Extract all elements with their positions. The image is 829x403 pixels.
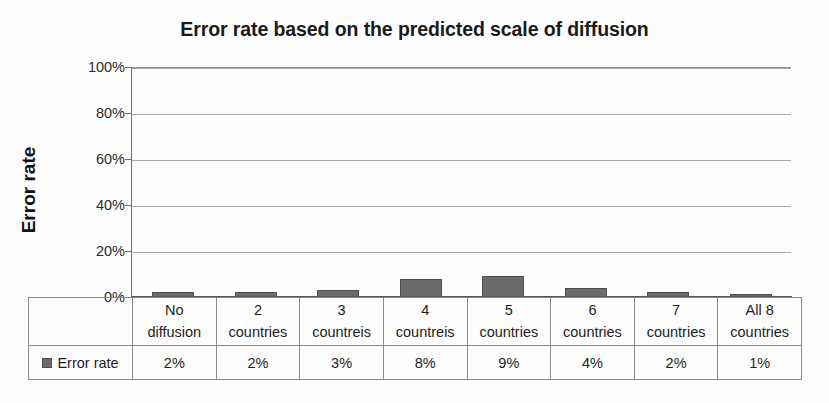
- bar-slot: [462, 68, 545, 297]
- category-label-cell: 3countreis: [300, 298, 384, 346]
- category-label-line: countries: [551, 322, 634, 343]
- data-value-row: Error rate2%2%3%8%9%4%2%1%: [29, 346, 802, 380]
- bar[interactable]: [482, 276, 524, 297]
- category-label-line: countries: [635, 322, 718, 343]
- bar-slot: [545, 68, 628, 297]
- data-value-cell: 3%: [300, 346, 384, 380]
- category-row-spacer: [29, 298, 133, 346]
- category-label-cell: 5countries: [467, 298, 551, 346]
- y-axis-tick-label: 80%: [15, 105, 125, 121]
- category-label-cell: 6countries: [551, 298, 635, 346]
- category-label-cell: 7countries: [634, 298, 718, 346]
- y-axis-tick-labels: 0%20%40%60%80%100%: [8, 67, 125, 297]
- category-label-line: countries: [718, 322, 801, 343]
- category-label-cell: All 8countries: [718, 298, 802, 346]
- data-value-cell: 2%: [133, 346, 217, 380]
- legend-label: Error rate: [57, 355, 118, 371]
- legend-swatch-icon: [42, 358, 52, 368]
- category-label-line: countreis: [300, 322, 383, 343]
- y-axis-tick-label: 20%: [15, 243, 125, 259]
- category-label-row: Nodiffusion2countries3countreis4countrei…: [29, 298, 802, 346]
- bars-layer: [132, 68, 791, 297]
- category-label-cell: 2countries: [216, 298, 300, 346]
- bar-slot: [380, 68, 463, 297]
- category-label-line: 4: [384, 300, 467, 321]
- data-value-cell: 2%: [216, 346, 300, 380]
- category-label-line: 6: [551, 300, 634, 321]
- data-value-cell: 4%: [551, 346, 635, 380]
- chart-title: Error rate based on the predicted scale …: [0, 18, 829, 41]
- data-value-cell: 9%: [467, 346, 551, 380]
- y-axis-tick-label: 60%: [15, 151, 125, 167]
- y-axis-tick-label: 100%: [15, 59, 125, 75]
- bar-slot: [627, 68, 710, 297]
- category-label-line: 7: [635, 300, 718, 321]
- legend-cell[interactable]: Error rate: [29, 346, 133, 380]
- bar-slot: [132, 68, 215, 297]
- bar[interactable]: [400, 279, 442, 297]
- category-label-line: 2: [217, 300, 300, 321]
- chart-figure: Error rate based on the predicted scale …: [0, 0, 829, 403]
- data-value-cell: 8%: [383, 346, 467, 380]
- category-label-line: All 8: [718, 300, 801, 321]
- category-label-line: countries: [217, 322, 300, 343]
- y-axis-tick-label: 40%: [15, 197, 125, 213]
- category-label-cell: 4countreis: [383, 298, 467, 346]
- data-value-cell: 2%: [634, 346, 718, 380]
- category-label-line: countreis: [384, 322, 467, 343]
- plot-area: [131, 67, 791, 297]
- category-label-line: 3: [300, 300, 383, 321]
- chart-data-table: Nodiffusion2countries3countreis4countrei…: [28, 297, 802, 380]
- category-label-line: countries: [468, 322, 551, 343]
- bar-slot: [297, 68, 380, 297]
- category-label-cell: Nodiffusion: [133, 298, 217, 346]
- category-label-line: diffusion: [133, 322, 216, 343]
- category-label-line: 5: [468, 300, 551, 321]
- data-value-cell: 1%: [718, 346, 802, 380]
- bar-slot: [710, 68, 793, 297]
- bar-slot: [215, 68, 298, 297]
- category-label-line: No: [133, 300, 216, 321]
